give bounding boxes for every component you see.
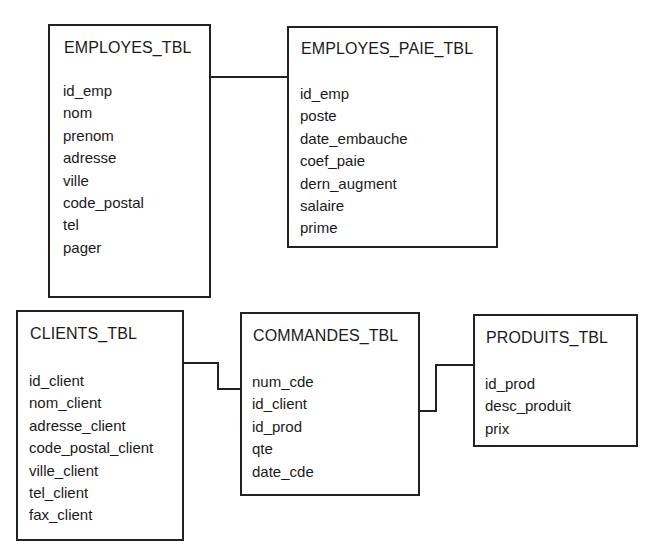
field: id_prod xyxy=(485,373,571,395)
table-employes-paie: EMPLOYES_PAIE_TBL id_emp poste date_emba… xyxy=(287,26,498,248)
field: dern_augment xyxy=(300,173,408,195)
field: date_cde xyxy=(252,461,314,483)
field-list: id_client nom_client adresse_client code… xyxy=(29,370,153,527)
connector-clients-commandes xyxy=(183,363,242,389)
table-title: EMPLOYES_PAIE_TBL xyxy=(301,40,473,58)
table-commandes: COMMANDES_TBL num_cde id_client id_prod … xyxy=(240,312,420,496)
field: pager xyxy=(63,237,144,259)
connector-commandes-produits xyxy=(418,365,475,411)
field-list: id_prod desc_produit prix xyxy=(485,373,571,440)
field: prix xyxy=(485,418,571,440)
table-title: COMMANDES_TBL xyxy=(253,327,398,345)
field: prenom xyxy=(63,125,144,147)
field: id_prod xyxy=(252,416,314,438)
field: poste xyxy=(300,105,408,127)
table-title: PRODUITS_TBL xyxy=(486,329,608,347)
field: salaire xyxy=(300,195,408,217)
field-list: id_emp poste date_embauche coef_paie der… xyxy=(300,83,408,240)
field: id_emp xyxy=(300,83,408,105)
field: adresse_client xyxy=(29,415,153,437)
field: fax_client xyxy=(29,504,153,526)
table-employes: EMPLOYES_TBL id_emp nom prenom adresse v… xyxy=(48,24,211,298)
field: qte xyxy=(252,438,314,460)
table-title: EMPLOYES_TBL xyxy=(64,39,191,57)
table-produits: PRODUITS_TBL id_prod desc_produit prix xyxy=(473,314,638,447)
field: adresse xyxy=(63,147,144,169)
field: ville xyxy=(63,170,144,192)
field: num_cde xyxy=(252,371,314,393)
field-list: id_emp nom prenom adresse ville code_pos… xyxy=(63,80,144,259)
field: id_client xyxy=(252,393,314,415)
table-clients: CLIENTS_TBL id_client nom_client adresse… xyxy=(16,310,184,541)
field-list: num_cde id_client id_prod qte date_cde xyxy=(252,371,314,483)
field: date_embauche xyxy=(300,128,408,150)
field: desc_produit xyxy=(485,395,571,417)
field: prime xyxy=(300,217,408,239)
field: code_postal xyxy=(63,192,144,214)
table-title: CLIENTS_TBL xyxy=(30,325,137,343)
field: coef_paie xyxy=(300,150,408,172)
field: id_client xyxy=(29,370,153,392)
field: nom xyxy=(63,102,144,124)
field: nom_client xyxy=(29,392,153,414)
field: id_emp xyxy=(63,80,144,102)
field: ville_client xyxy=(29,460,153,482)
field: tel_client xyxy=(29,482,153,504)
field: tel xyxy=(63,214,144,236)
field: code_postal_client xyxy=(29,437,153,459)
